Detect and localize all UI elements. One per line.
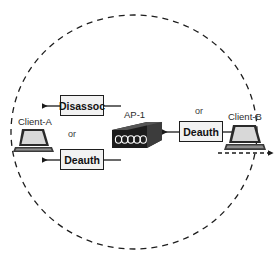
deauth-frame-right-box[interactable]: Deauth (179, 121, 223, 142)
client-a-label: Client-A (18, 117, 52, 127)
laptop-icon (13, 129, 54, 152)
diagram-canvas: Disassoc Deauth Deauth Client-A AP-1 Cli… (0, 0, 274, 264)
or-left-label: or (68, 130, 76, 139)
deauth-frame-right-label: Deauth (183, 126, 219, 138)
deauth-frame-left-label: Deauth (64, 154, 100, 166)
deauth-frame-left-box[interactable]: Deauth (60, 149, 104, 170)
ap-1-label: AP-1 (124, 110, 145, 120)
laptop-icon (224, 125, 266, 150)
client-b-label: Client-B (228, 112, 262, 122)
diagram-vector-layer (0, 0, 274, 264)
disassoc-frame-label: Disassoc (59, 100, 105, 112)
disassoc-frame-box[interactable]: Disassoc (60, 95, 104, 116)
or-right-label: or (195, 107, 203, 116)
access-point-icon (112, 122, 162, 148)
